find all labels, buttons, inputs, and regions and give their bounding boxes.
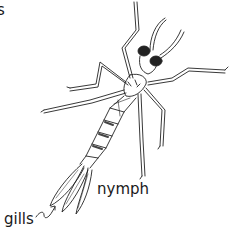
nymph-label: nymph (97, 182, 149, 197)
thorax (124, 74, 146, 96)
antennae (150, 18, 184, 58)
left-eye-icon (138, 46, 150, 56)
gills (50, 164, 92, 214)
legs (41, 2, 228, 179)
abdomen (80, 96, 136, 168)
nymph-illustration (0, 0, 229, 238)
gills-pointer-arrow (36, 206, 55, 218)
partial-label: s (0, 3, 5, 18)
head (138, 46, 162, 74)
gills-label: gills (4, 212, 34, 227)
right-eye-icon (150, 56, 162, 66)
